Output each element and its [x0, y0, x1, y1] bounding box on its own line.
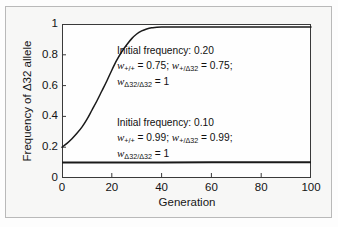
fitness-subscript-hom-delta-2: Δ32/Δ32 [124, 152, 152, 161]
annotation2-line3: wΔ32/Δ32 = 1 [117, 146, 232, 162]
annotation2-line1: Initial frequency: 0.10 [117, 116, 232, 130]
annotation1-line3: wΔ32/Δ32 = 1 [117, 74, 232, 90]
annotation1-line1: Initial frequency: 0.20 [117, 44, 232, 58]
fitness-subscript-plus-plus: +/+ [124, 64, 134, 73]
x-tick-0: 0 [42, 181, 82, 193]
fitness-subscript-hom-delta: Δ32/Δ32 [124, 80, 152, 89]
fitness-value-het: = 0.75; [198, 60, 232, 71]
x-tick-60: 60 [191, 181, 231, 193]
fitness-value-hom-delta: = 1 [152, 76, 169, 87]
x-tick-80: 80 [241, 181, 281, 193]
annotation-block-weak-selection: Initial frequency: 0.10 w+/+ = 0.99; w+/… [117, 116, 232, 162]
x-tick-40: 40 [142, 181, 182, 193]
fitness-value-plus-plus: = 0.75; [135, 60, 172, 71]
fitness-subscript-plus-plus-2: +/+ [124, 136, 134, 145]
fitness-value-het-2: = 0.99; [198, 132, 232, 143]
annotation-block-strong-selection: Initial frequency: 0.20 w+/+ = 0.75; w+/… [117, 44, 232, 90]
fitness-value-hom-delta-2: = 1 [152, 148, 169, 159]
fitness-subscript-het: +/Δ32 [179, 64, 198, 73]
x-tick-20: 20 [92, 181, 132, 193]
figure-container: Frequency of Δ32 allele 0 0.2 0.4 0.6 0.… [0, 0, 338, 227]
x-tick-100: 100 [291, 181, 331, 193]
y-axis-title: Frequency of Δ32 allele [21, 21, 33, 181]
fitness-subscript-het-2: +/Δ32 [179, 136, 198, 145]
annotation1-line2: w+/+ = 0.75; w+/Δ32 = 0.75; [117, 58, 232, 74]
fitness-value-plus-plus-2: = 0.99; [135, 132, 172, 143]
annotation2-line2: w+/+ = 0.99; w+/Δ32 = 0.99; [117, 130, 232, 146]
x-axis-title: Generation [62, 196, 312, 208]
y-tick-marks [62, 55, 66, 147]
x-tick-marks [112, 173, 261, 178]
